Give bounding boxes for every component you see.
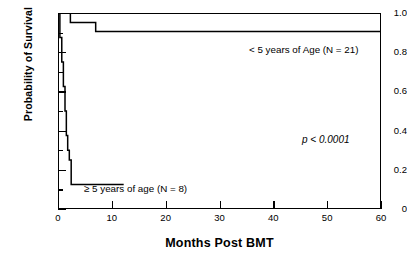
x-tick-label: 30 [200, 212, 240, 223]
annotation-over-5-years: ≥ 5 years of age (N = 8) [84, 183, 187, 194]
x-tick-label: 0 [38, 212, 78, 223]
y-axis-title: Probability of Survival [22, 0, 34, 154]
x-tick-label: 10 [92, 212, 132, 223]
survival-curves [58, 13, 381, 209]
survival-chart-figure: Probability of Survival Months Post BMT … [0, 0, 407, 262]
x-tick [381, 201, 382, 209]
x-tick-label: 50 [307, 212, 347, 223]
x-tick-label: 20 [146, 212, 186, 223]
curve-under-5-years [58, 13, 381, 32]
y-tick-major [58, 209, 66, 210]
x-axis-title: Months Post BMT [58, 236, 381, 250]
annotation-p-value: p < 0.0001 [302, 134, 350, 145]
x-tick-label: 60 [361, 212, 401, 223]
x-tick-label: 40 [253, 212, 293, 223]
curve-over-5-years [58, 13, 124, 185]
annotation-under-5-years: < 5 years of Age (N = 21) [249, 44, 358, 55]
